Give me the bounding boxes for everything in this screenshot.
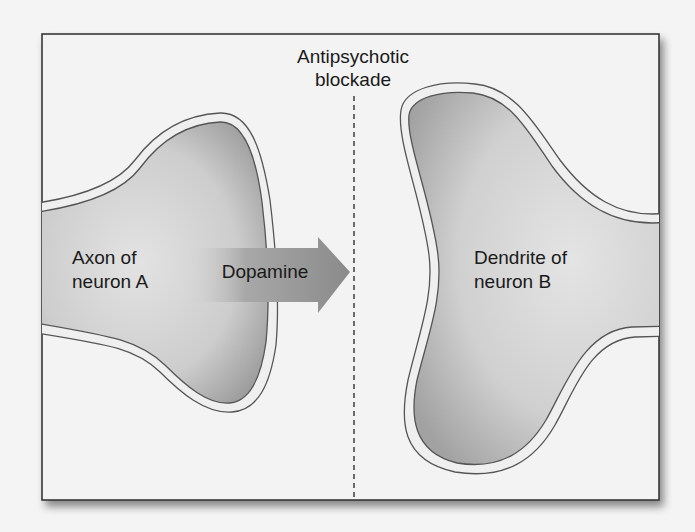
title-line2: blockade [315,69,391,90]
dendrite-label-line1: Dendrite of [474,247,568,268]
dopamine-label: Dopamine [222,261,309,282]
axon-label-line1: Axon of [72,247,137,268]
dendrite-label-line2: neuron B [474,271,551,292]
title-line1: Antipsychotic [297,46,409,67]
axon-label-line2: neuron A [72,271,148,292]
synapse-diagram: Antipsychotic blockade Axon of neuron A … [0,0,695,532]
